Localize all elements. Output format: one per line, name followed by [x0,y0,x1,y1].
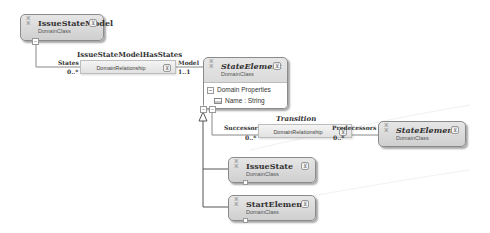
class-stereotype: DomainClass [38,28,71,34]
domain-class-icon: ⁑ [384,125,389,134]
relationship-name: Transition [276,114,316,123]
compartment-domain-properties[interactable]: −Domain Properties [207,86,271,94]
relationship-kind: DomainRelationship [259,129,337,135]
expand-toggle-icon[interactable]: ⊻ [89,19,97,27]
class-header: ⁑ StateElement DomainClass ⊻ [379,122,465,146]
relationship-kind: DomainRelationship [81,65,161,71]
class-name: IssueState [246,161,293,171]
class-name: IssueStateModel [38,18,113,28]
class-header: ⁑ IssueState DomainClass ⊻ [229,158,315,182]
class-header: ⁑ StartElement DomainClass ⊻ [229,196,315,220]
property-icon [214,98,222,104]
class-state-element[interactable]: ⁑ StateElement DomainClass ⊻ −Domain Pro… [203,57,288,109]
expand-toggle-icon[interactable]: ⊻ [163,64,171,72]
source-multiplicity: 0..* [67,68,79,75]
source-role-label: States [58,59,79,66]
class-stereotype: DomainClass [221,71,254,77]
domain-class-icon: ⁑ [26,18,31,27]
collapse-connector-icon[interactable]: − [200,106,207,113]
source-multiplicity: 0..* [245,134,257,141]
class-issue-state-model[interactable]: ⁑ IssueStateModel DomainClass ⊻ [20,14,104,41]
class-state-element-reference[interactable]: ⁑ StateElement DomainClass ⊻ [378,121,466,147]
expand-toggle-icon[interactable]: ⊻ [301,200,309,208]
class-start-element[interactable]: ⁑ StartElement DomainClass ⊻ [228,195,316,221]
collapse-toggle-icon[interactable]: ⊻ [273,62,281,70]
domain-class-icon: ⁑ [234,199,239,208]
class-name: StartElement [246,199,306,209]
class-name: StateElement [396,125,457,135]
class-stereotype: DomainClass [246,171,279,177]
property-label: Name : String [225,97,265,104]
collapse-connector-icon[interactable] [243,218,248,223]
collapse-connector-icon[interactable]: − [209,106,216,113]
source-role-label: Successors [224,124,261,131]
class-stereotype: DomainClass [246,209,279,215]
domain-class-icon: ⁑ [209,61,214,70]
compartment-collapse-icon[interactable]: − [207,87,214,94]
class-stereotype: DomainClass [396,135,429,141]
collapse-connector-icon[interactable] [243,180,248,185]
domain-class-icon: ⁑ [234,161,239,170]
class-header: ⁑ IssueStateModel DomainClass ⊻ [21,15,103,39]
target-role-label: Model [178,59,199,66]
property-item[interactable]: Name : String [214,97,265,104]
relationship-name: IssueStateModelHasStates [77,50,182,59]
target-multiplicity: 1..1 [178,68,191,75]
diagram-canvas: ⁑ IssueStateModel DomainClass ⊻ − IssueS… [0,0,490,233]
target-multiplicity: 0..* [333,134,345,141]
expand-toggle-icon[interactable]: ⊻ [451,126,459,134]
relationship-issue-state-model-has-states[interactable]: DomainRelationship ⊻ [80,60,176,74]
expand-toggle-icon[interactable]: ⊻ [301,162,309,170]
target-role-label: Predecessors [332,124,376,131]
collapse-connector-icon[interactable]: − [32,38,39,45]
class-body: −Domain Properties Name : String [204,82,287,108]
class-header: ⁑ StateElement DomainClass ⊻ [204,58,287,82]
class-issue-state[interactable]: ⁑ IssueState DomainClass ⊻ [228,157,316,183]
compartment-title: Domain Properties [217,86,271,93]
